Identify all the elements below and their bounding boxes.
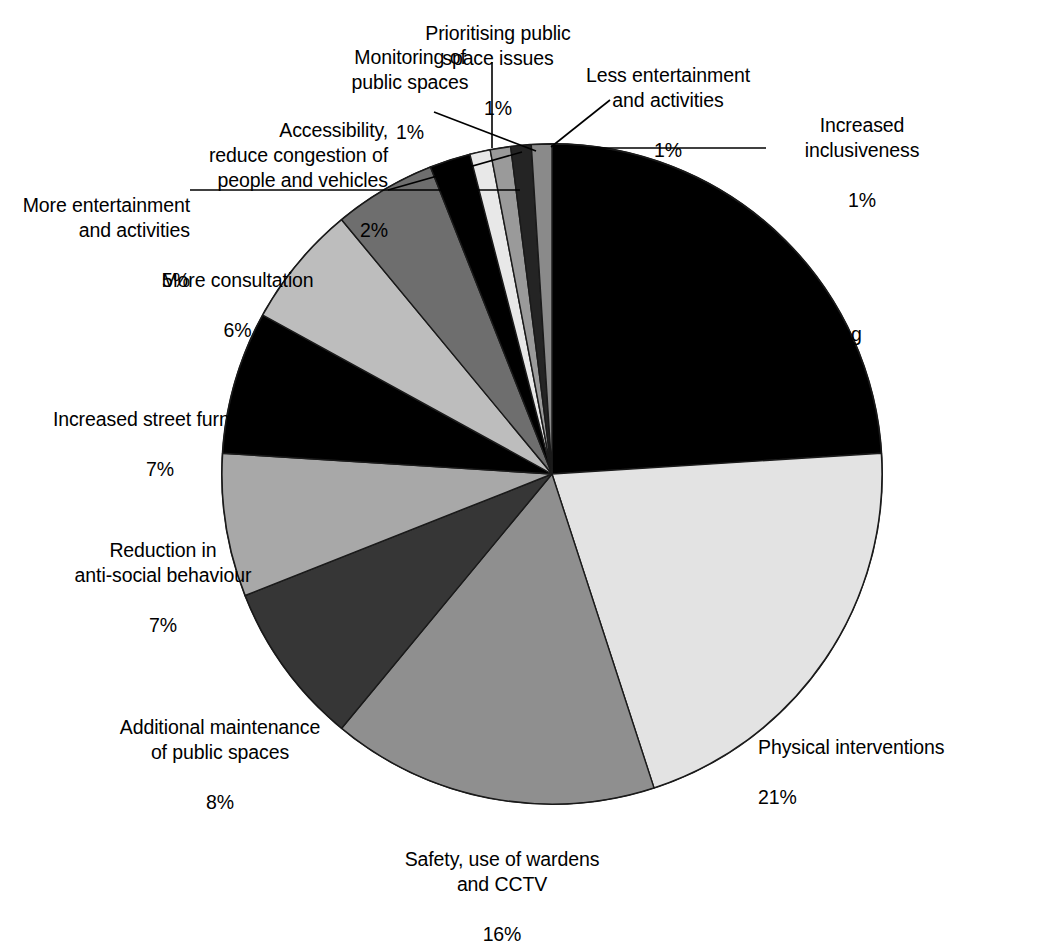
label-safety-percent: 16%	[382, 922, 622, 945]
label-safety-text: Safety, use of wardens and CCTV	[382, 847, 622, 897]
label-less-entertainment-text: Less entertainment and activities	[570, 63, 766, 113]
label-more-consultation: More consultation 6%	[130, 243, 345, 368]
label-prioritising-percent: 1%	[398, 96, 598, 121]
label-less-entertainment-and-activities: Less entertainment and activities 1%	[570, 38, 766, 188]
label-increased-street-furniture: Increased street furniture 7%	[35, 382, 285, 507]
label-physical-interventions-percent: 21%	[758, 785, 1018, 810]
label-increased-inclusiveness: Increased inclusiveness 1%	[772, 88, 952, 238]
label-increased-inclusiveness-percent: 1%	[772, 188, 952, 213]
label-safety-use-of-wardens-and-cctv: Safety, use of wardens and CCTV 16%	[382, 822, 622, 945]
label-increased-inclusiveness-text: Increased inclusiveness	[772, 113, 952, 163]
label-increased-street-furniture-text: Increased street furniture	[35, 407, 285, 432]
label-prioritising-public-space-issues: Prioritising public space issues 1%	[398, 0, 598, 146]
label-additional-cleaning-percent: 24%	[700, 397, 960, 422]
label-accessibility-percent: 2%	[128, 218, 388, 243]
label-reduction-anti-social-percent: 7%	[50, 613, 276, 638]
label-additional-maintenance-percent: 8%	[95, 790, 345, 815]
label-additional-maintenance-text: Additional maintenance of public spaces	[95, 715, 345, 765]
label-physical-interventions-text: Physical interventions	[758, 735, 1018, 760]
label-more-consultation-text: More consultation	[130, 268, 345, 293]
label-more-consultation-percent: 6%	[130, 318, 345, 343]
label-additional-maintenance-of-public-spaces: Additional maintenance of public spaces …	[95, 690, 345, 840]
label-additional-cleaning-text: Additional cleaning of public spaces	[700, 322, 960, 372]
label-reduction-in-anti-social-behaviour: Reduction in anti-social behaviour 7%	[50, 513, 276, 663]
label-less-entertainment-percent: 1%	[570, 138, 766, 163]
label-reduction-anti-social-text: Reduction in anti-social behaviour	[50, 538, 276, 588]
label-prioritising-text: Prioritising public space issues	[398, 21, 598, 71]
label-increased-street-furniture-percent: 7%	[35, 457, 285, 482]
label-physical-interventions: Physical interventions 21%	[758, 710, 1018, 835]
label-additional-cleaning-of-public-spaces: Additional cleaning of public spaces 24%	[700, 297, 960, 447]
